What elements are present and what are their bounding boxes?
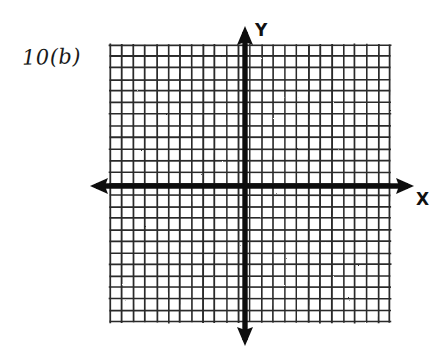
- y-axis-label: Y: [255, 20, 267, 40]
- problem-number-label: 10(b): [22, 44, 82, 70]
- x-axis-label: X: [416, 189, 429, 209]
